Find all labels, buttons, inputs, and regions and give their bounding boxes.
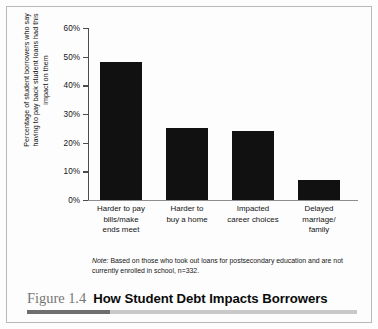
bar-3 [298, 180, 340, 200]
x-category-label-2-line-1: Impacted [237, 204, 269, 213]
x-category-label-1-line-2: buy a home [166, 215, 207, 224]
y-tick-10 [83, 171, 88, 172]
caption-rule [27, 310, 357, 314]
x-category-label-0-line-2: bills/make [103, 215, 138, 224]
y-tick-30 [83, 114, 88, 115]
x-category-label-2-line-2: career choices [227, 215, 278, 224]
caption-rule-accent [27, 310, 110, 314]
bar-0 [100, 62, 142, 200]
x-category-label-3: Delayed marriage/ family [276, 204, 362, 236]
x-axis-baseline [87, 200, 358, 201]
figure-note-body: Based on those who took out loans for po… [92, 257, 343, 274]
y-tick-40 [83, 85, 88, 86]
plot-region: 0% 10% 20% 30% 40% 50% 60% Harder to pay… [88, 28, 350, 200]
y-axis-line [88, 28, 89, 200]
y-axis-title: Percentage of student borrowers who say … [23, 0, 63, 169]
y-tick-50 [83, 57, 88, 58]
x-category-label-3-line-2: marriage/ [302, 215, 335, 224]
bar-2 [232, 131, 274, 200]
figure-number: Figure 1.4 [27, 290, 86, 307]
x-category-label-3-line-3: family [309, 225, 330, 234]
x-category-label-3-line-1: Delayed [305, 204, 334, 213]
y-axis-title-line-1: Percentage of student borrowers who say [23, 13, 31, 147]
y-tick-20 [83, 143, 88, 144]
figure-caption: Figure 1.4 How Student Debt Impacts Borr… [27, 290, 357, 307]
figure-note-lead: Note: [92, 257, 108, 264]
y-tick-label-60: 60% [64, 24, 80, 33]
y-tick-label-20: 20% [64, 138, 80, 147]
x-category-label-0-line-1: Harder to pay [97, 204, 145, 213]
y-tick-0 [83, 200, 88, 201]
y-tick-label-50: 50% [64, 52, 80, 61]
y-tick-label-30: 30% [64, 110, 80, 119]
x-category-label-1-line-1: Harder to [171, 204, 204, 213]
y-axis-title-line-2: having to pay back student loans had thi… [32, 13, 40, 146]
figure-container: Percentage of student borrowers who say … [0, 0, 378, 329]
y-tick-label-10: 10% [64, 167, 80, 176]
y-axis-title-line-3: impact on them [42, 55, 50, 105]
figure-title: How Student Debt Impacts Borrowers [93, 291, 327, 306]
x-category-label-0-line-3: ends meet [103, 225, 140, 234]
y-tick-label-40: 40% [64, 81, 80, 90]
figure-note: Note: Based on those who took out loans … [92, 256, 354, 275]
y-tick-60 [83, 28, 88, 29]
bar-1 [166, 128, 208, 200]
chart-area: Percentage of student borrowers who say … [16, 14, 362, 254]
